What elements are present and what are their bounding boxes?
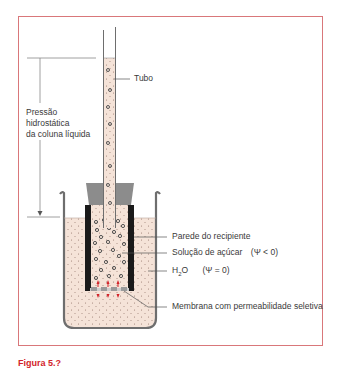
label-water: H2O (Ψ = 0) (172, 265, 230, 280)
figure-caption: Figura 5.? (18, 357, 61, 369)
label-tube: Tubo (134, 73, 153, 84)
container-wall-right (128, 205, 134, 291)
sugar-solution-text: Solução de açúcar (172, 247, 242, 257)
tube (104, 27, 116, 228)
label-pressure-line3: da coluna líquida (26, 129, 90, 140)
label-sugar-solution: Solução de açúcar (Ψ < 0) (172, 247, 278, 258)
container-wall-left (85, 205, 91, 291)
water-suffix: O (181, 265, 188, 275)
caption-figure-label: Figura 5.? (18, 358, 61, 368)
sugar-solution-psi: (Ψ < 0) (251, 247, 278, 257)
arrow-down-icon (38, 211, 43, 216)
label-container-wall: Parede do recipiente (172, 231, 250, 242)
water-psi: (Ψ = 0) (202, 265, 229, 275)
label-membrane: Membrana com permeabilidade seletiva (172, 301, 323, 312)
label-pressure-line1: Pressão (26, 107, 57, 118)
label-pressure-line2: hidrostática (26, 118, 69, 129)
